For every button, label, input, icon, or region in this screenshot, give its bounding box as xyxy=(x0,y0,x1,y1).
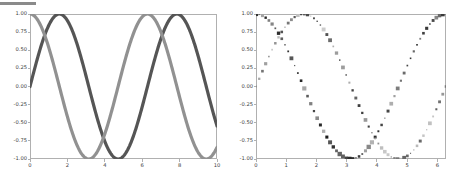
scatter-marker xyxy=(402,156,406,159)
scatter-marker xyxy=(348,82,350,84)
scatter-marker xyxy=(271,22,274,25)
scatter-marker xyxy=(403,72,406,75)
scatter-marker xyxy=(294,16,296,18)
scatter-marker xyxy=(371,132,372,133)
scatter-marker xyxy=(345,74,347,76)
y-tick-mark xyxy=(28,140,31,141)
scatter-marker xyxy=(287,22,290,25)
scatter-marker xyxy=(306,95,309,98)
scatter-marker xyxy=(339,59,340,60)
y-tick-label: -1.00 xyxy=(230,156,253,161)
scatter-marker xyxy=(290,56,294,60)
x-tick-label: 1 xyxy=(285,163,288,168)
scatter-marker xyxy=(280,31,283,34)
y-tick-label: -0.75 xyxy=(4,138,27,143)
y-tick-label: -0.75 xyxy=(230,138,253,143)
scatter-marker xyxy=(322,28,326,32)
scatter-marker xyxy=(387,153,390,156)
scatter-marker xyxy=(274,42,276,44)
scatter-marker xyxy=(374,138,376,140)
scatter-marker xyxy=(367,145,371,149)
y-tick-mark xyxy=(254,32,257,33)
scatter-marker xyxy=(319,123,322,126)
scatter-marker xyxy=(277,36,279,38)
scatter-marker xyxy=(429,23,431,25)
y-tick-label: -0.25 xyxy=(4,102,27,107)
x-tick-label: 0 xyxy=(254,163,257,168)
y-tick-label: -0.25 xyxy=(230,102,253,107)
scatter-marker xyxy=(341,155,345,159)
scatter-marker xyxy=(361,112,363,114)
scatter-marker xyxy=(277,32,280,35)
scatter-marker xyxy=(271,49,273,51)
scatter-marker xyxy=(358,104,361,107)
scatter-marker xyxy=(432,116,434,118)
scatter-marker xyxy=(303,14,306,15)
y-tick-label: -0.50 xyxy=(4,120,27,125)
scatter-marker xyxy=(407,65,409,67)
x-tick-label: 8 xyxy=(178,163,181,168)
scatter-marker xyxy=(335,51,338,54)
scatter-marker xyxy=(322,130,325,133)
scatter-marker xyxy=(320,24,321,25)
scatter-marker xyxy=(396,157,399,159)
scatter-marker xyxy=(368,126,370,128)
x-tick-mark xyxy=(256,159,257,162)
scatter-marker xyxy=(380,124,382,126)
scatter-marker xyxy=(313,110,315,112)
y-tick-label: 0.75 xyxy=(4,30,27,35)
right-scatter-plot-panel xyxy=(256,14,446,159)
scatter-marker xyxy=(332,46,334,48)
scatter-marker xyxy=(364,149,367,152)
scatter-marker xyxy=(355,157,357,159)
scatter-marker xyxy=(445,85,446,88)
x-tick-mark xyxy=(316,159,317,162)
scatter-marker xyxy=(435,108,437,110)
scatter-marker xyxy=(325,33,328,36)
x-tick-label: 4 xyxy=(375,163,378,168)
scatter-marker xyxy=(406,155,409,158)
y-tick-label: 0.00 xyxy=(4,84,27,89)
y-tick-label: 0.25 xyxy=(4,66,27,71)
x-tick-label: 0 xyxy=(28,163,31,168)
scatter-marker xyxy=(296,14,300,17)
scatter-marker xyxy=(389,102,393,106)
left-line-plot-panel xyxy=(30,14,217,159)
scatter-marker xyxy=(419,140,422,143)
scatter-marker xyxy=(370,140,374,144)
x-tick-mark xyxy=(30,159,31,162)
right-plot-canvas xyxy=(256,14,446,159)
x-tick-label: 6 xyxy=(436,163,439,168)
scatter-marker xyxy=(425,27,428,30)
scatter-marker xyxy=(377,130,379,132)
scatter-marker xyxy=(410,58,412,60)
scatter-marker xyxy=(297,72,299,74)
scatter-marker xyxy=(264,62,267,65)
scatter-marker xyxy=(428,121,432,125)
scatter-marker xyxy=(268,56,270,58)
scatter-marker xyxy=(383,150,387,154)
scatter-marker xyxy=(354,97,357,100)
scatter-marker xyxy=(391,156,392,157)
scatter-marker xyxy=(261,70,264,73)
left-plot-canvas xyxy=(30,14,217,159)
scatter-marker xyxy=(416,145,419,148)
y-tick-label: 1.00 xyxy=(4,11,27,16)
y-tick-mark xyxy=(254,140,257,141)
scatter-marker xyxy=(435,16,439,20)
y-tick-mark xyxy=(254,104,257,105)
matplotlib-figure: 1.000.750.500.250.00-0.25-0.50-0.75-1.00… xyxy=(0,0,462,182)
x-tick-label: 10 xyxy=(214,163,221,168)
x-tick-mark xyxy=(104,159,105,162)
scatter-marker xyxy=(328,140,332,144)
y-tick-mark xyxy=(28,50,31,51)
scatter-marker xyxy=(287,50,289,52)
scatter-marker xyxy=(306,14,309,16)
x-tick-label: 5 xyxy=(406,163,409,168)
scatter-marker xyxy=(310,16,311,17)
scatter-marker xyxy=(422,32,425,35)
scatter-marker xyxy=(445,14,446,15)
x-tick-mark xyxy=(346,159,347,162)
scatter-marker xyxy=(410,153,411,154)
scatter-marker xyxy=(438,100,441,103)
